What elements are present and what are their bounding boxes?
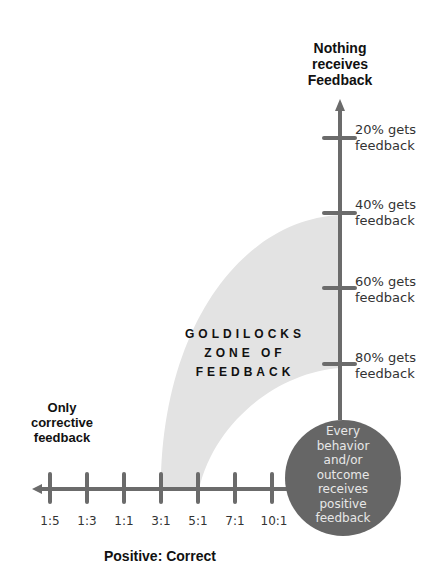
y-tick-line: 80% gets <box>355 350 416 366</box>
circle-text-line: feedback <box>298 511 388 526</box>
top-label-line: receives <box>290 56 390 72</box>
y-tick-line: feedback <box>355 138 416 154</box>
x-tick-label: 3:1 <box>141 514 181 528</box>
circle-caption: Every behavior and/or outcome receives p… <box>298 424 388 526</box>
x-tick-label: 1:3 <box>67 514 107 528</box>
circle-text-line: behavior <box>298 439 388 454</box>
y-tick-label-80: 80% gets feedback <box>355 350 416 382</box>
top-axis-label: Nothing receives Feedback <box>290 40 390 88</box>
top-label-line: Feedback <box>290 72 390 88</box>
zone-label-line: GOLDILOCKS <box>185 325 305 344</box>
y-tick-line: 60% gets <box>355 274 416 290</box>
y-tick-line: feedback <box>355 366 416 382</box>
x-tick-label: 7:1 <box>215 514 255 528</box>
circle-text-line: outcome <box>298 468 388 483</box>
goldilocks-zone-label: GOLDILOCKS ZONE OF FEEDBACK <box>185 325 305 382</box>
y-tick-line: feedback <box>355 290 416 306</box>
y-tick-label-20: 20% gets feedback <box>355 122 416 154</box>
x-axis-arrow-icon <box>32 484 42 494</box>
y-tick-label-60: 60% gets feedback <box>355 274 416 306</box>
left-axis-label: Only corrective feedback <box>22 400 102 445</box>
y-tick-line: feedback <box>355 213 416 229</box>
top-label-line: Nothing <box>290 40 390 56</box>
x-tick-label: 1:1 <box>104 514 144 528</box>
x-tick-label: 5:1 <box>178 514 218 528</box>
y-tick-line: 40% gets <box>355 197 416 213</box>
y-tick-label-40: 40% gets feedback <box>355 197 416 229</box>
zone-label-line: FEEDBACK <box>185 363 305 382</box>
left-label-line: corrective <box>22 415 102 430</box>
y-tick-line: 20% gets <box>355 122 416 138</box>
circle-text-line: positive <box>298 497 388 512</box>
left-label-line: Only <box>22 400 102 415</box>
circle-text-line: and/or <box>298 453 388 468</box>
x-axis-title: Positive: Correct <box>80 548 240 564</box>
circle-text-line: Every <box>298 424 388 439</box>
x-tick-label: 1:5 <box>30 514 70 528</box>
y-axis-arrow-icon <box>335 99 345 111</box>
x-tick-label: 10:1 <box>254 514 294 528</box>
left-label-line: feedback <box>22 430 102 445</box>
circle-text-line: receives <box>298 482 388 497</box>
zone-label-line: ZONE OF <box>185 344 305 363</box>
